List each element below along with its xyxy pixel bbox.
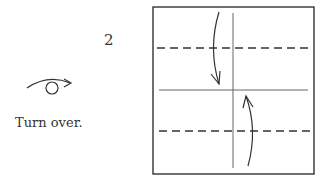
origami-diagram (0, 0, 321, 181)
turn-over-icon (27, 79, 71, 94)
paper-square (153, 7, 314, 174)
